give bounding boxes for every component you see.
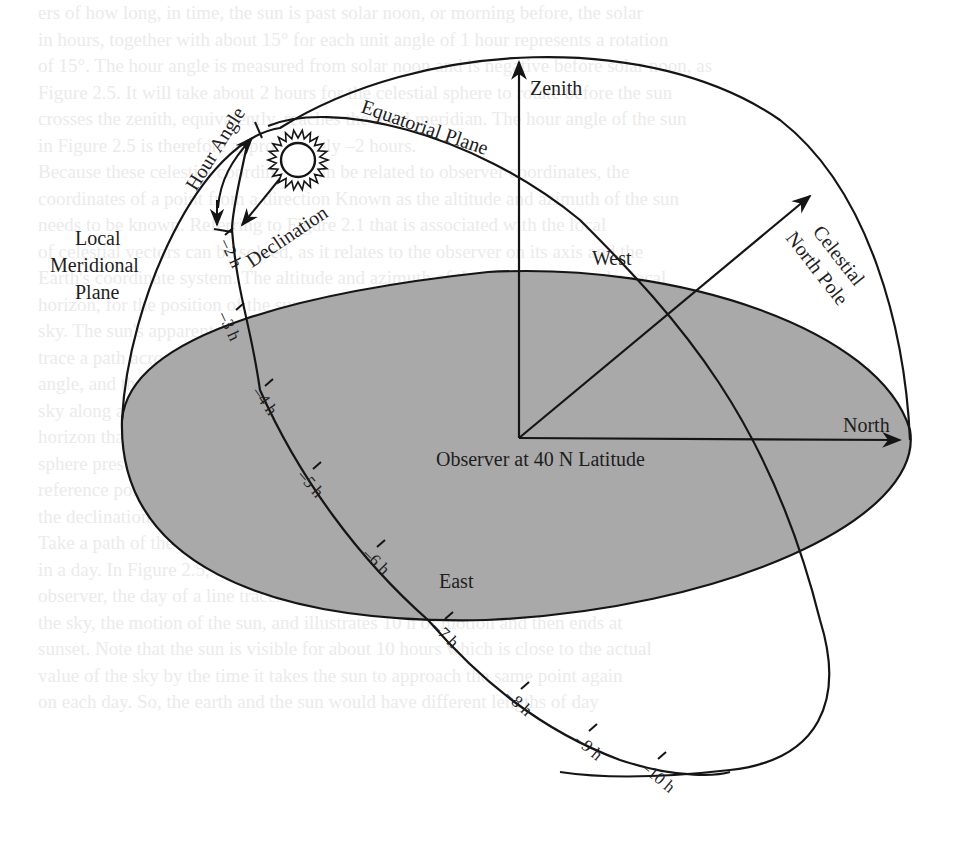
celestial-sphere-diagram: –2 h–3 h–4 h–5 h–6 h–7 h–8 h–9 h–10 h Ze… — [0, 0, 956, 844]
label-equatorial-plane: Equatorial Plane — [358, 95, 491, 160]
label-local-meridional-plane-2: Meridional — [50, 254, 139, 276]
label-local-meridional-plane-1: Local — [75, 227, 121, 249]
label-local-meridional-plane-3: Plane — [75, 281, 120, 303]
label-east: East — [439, 570, 474, 592]
hour-tick — [521, 682, 529, 689]
declination-arrow — [242, 176, 282, 225]
label-zenith: Zenith — [530, 77, 582, 99]
hour-tick — [589, 724, 597, 731]
label-observer: Observer at 40 N Latitude — [436, 448, 645, 470]
hour-tick — [658, 752, 666, 759]
hour-tick-label: –9 h — [571, 730, 607, 765]
label-north: North — [843, 414, 890, 436]
horizon-plane — [122, 271, 911, 620]
hour-tick-label: –7 h — [427, 617, 463, 653]
label-declination: Declination — [242, 201, 332, 271]
label-west: West — [592, 247, 632, 269]
